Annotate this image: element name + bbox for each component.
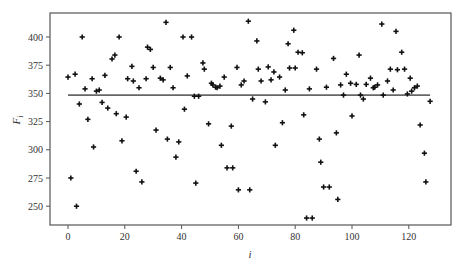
plus-marker-icon <box>125 76 130 81</box>
plus-marker-icon <box>200 60 205 65</box>
plus-marker-icon <box>99 100 104 105</box>
plus-marker-icon <box>321 184 326 189</box>
plus-marker-icon <box>77 101 82 106</box>
y-tick-label: 250 <box>28 201 43 212</box>
plus-marker-icon <box>168 65 173 70</box>
plus-marker-icon <box>344 72 349 77</box>
plus-marker-icon <box>185 73 190 78</box>
plus-marker-icon <box>402 67 407 72</box>
plus-marker-icon <box>268 77 273 82</box>
plus-marker-icon <box>134 169 139 174</box>
plus-marker-icon <box>102 73 107 78</box>
plus-marker-icon <box>241 78 246 83</box>
plus-marker-icon <box>334 130 339 135</box>
plus-marker-icon <box>341 92 346 97</box>
plus-marker-icon <box>259 78 264 83</box>
plus-marker-icon <box>153 127 158 132</box>
y-tick-label: 400 <box>28 32 43 43</box>
plus-marker-icon <box>250 96 255 101</box>
plus-marker-icon <box>91 144 96 149</box>
plus-marker-icon <box>314 67 319 72</box>
x-tick-label: 120 <box>401 231 416 242</box>
plus-marker-icon <box>170 85 175 90</box>
plus-marker-icon <box>393 29 398 34</box>
data-points <box>65 19 432 221</box>
plus-marker-icon <box>318 160 323 165</box>
plus-marker-icon <box>335 197 340 202</box>
y-tick-label: 375 <box>28 60 43 71</box>
plus-marker-icon <box>82 86 87 91</box>
plus-marker-icon <box>422 151 427 156</box>
plus-marker-icon <box>293 65 298 70</box>
plus-marker-icon <box>310 215 315 220</box>
plus-marker-icon <box>85 117 90 122</box>
y-tick-label: 325 <box>28 116 43 127</box>
plus-marker-icon <box>247 187 252 192</box>
plus-marker-icon <box>246 19 251 24</box>
plus-marker-icon <box>254 38 259 43</box>
plus-marker-icon <box>173 155 178 160</box>
plus-marker-icon <box>139 179 144 184</box>
x-axis-ticks: 020406080100120 <box>66 225 417 242</box>
plus-marker-icon <box>193 180 198 185</box>
scatter-chart: 020406080100120 250275300325350375400 i … <box>0 0 460 266</box>
plus-marker-icon <box>271 69 276 74</box>
plus-marker-icon <box>202 67 207 72</box>
y-axis-ticks: 250275300325350375400 <box>28 32 50 212</box>
plus-marker-icon <box>114 111 119 116</box>
plus-marker-icon <box>358 92 363 97</box>
plus-marker-icon <box>80 34 85 39</box>
svg-text:Fi: Fi <box>10 116 25 126</box>
plus-marker-icon <box>286 41 291 46</box>
plus-marker-icon <box>74 204 79 209</box>
plus-marker-icon <box>112 52 117 57</box>
plus-marker-icon <box>263 99 268 104</box>
plus-marker-icon <box>144 76 149 81</box>
y-tick-label: 275 <box>28 173 43 184</box>
y-tick-label: 300 <box>28 144 43 155</box>
plus-marker-icon <box>304 215 309 220</box>
x-tick-label: 0 <box>66 231 71 242</box>
plus-marker-icon <box>381 92 386 97</box>
plus-marker-icon <box>180 34 185 39</box>
plus-marker-icon <box>354 82 359 87</box>
x-tick-label: 100 <box>345 231 360 242</box>
plus-marker-icon <box>428 99 433 104</box>
plus-marker-icon <box>388 67 393 72</box>
plus-marker-icon <box>129 64 134 69</box>
plus-marker-icon <box>109 56 114 61</box>
plus-marker-icon <box>224 165 229 170</box>
y-tick-label: 350 <box>28 88 43 99</box>
plus-marker-icon <box>300 50 305 55</box>
plus-marker-icon <box>287 65 292 70</box>
plus-marker-icon <box>230 165 235 170</box>
plus-marker-icon <box>423 179 428 184</box>
plus-marker-icon <box>307 86 312 91</box>
plus-marker-icon <box>327 184 332 189</box>
plus-marker-icon <box>124 114 129 119</box>
plus-marker-icon <box>222 74 227 79</box>
plus-marker-icon <box>176 139 181 144</box>
plus-marker-icon <box>361 96 366 101</box>
plus-marker-icon <box>324 85 329 90</box>
plus-marker-icon <box>229 124 234 129</box>
plus-marker-icon <box>65 74 70 79</box>
plus-marker-icon <box>338 82 343 87</box>
plus-marker-icon <box>349 113 354 118</box>
plus-marker-icon <box>399 50 404 55</box>
x-tick-label: 40 <box>177 231 187 242</box>
plus-marker-icon <box>206 121 211 126</box>
plus-marker-icon <box>73 72 78 77</box>
x-tick-label: 80 <box>290 231 300 242</box>
y-axis-label: Fi <box>10 116 25 126</box>
plus-marker-icon <box>301 112 306 117</box>
plus-marker-icon <box>256 67 261 72</box>
plus-marker-icon <box>357 52 362 57</box>
plus-marker-icon <box>163 20 168 25</box>
plus-marker-icon <box>219 143 224 148</box>
x-tick-label: 60 <box>233 231 243 242</box>
plus-marker-icon <box>117 34 122 39</box>
plus-marker-icon <box>364 82 369 87</box>
plus-marker-icon <box>131 78 136 83</box>
plus-marker-icon <box>151 65 156 70</box>
